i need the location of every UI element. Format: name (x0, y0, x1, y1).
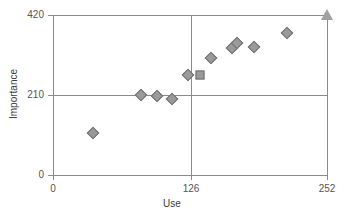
data-point[interactable] (195, 71, 204, 80)
data-point[interactable] (165, 92, 178, 105)
x-tick-252 (327, 175, 328, 180)
y-tick-label-210: 210 (0, 89, 44, 100)
y-tick-label-0: 0 (0, 169, 44, 180)
y-axis-title: Importance (8, 44, 19, 144)
data-point[interactable] (181, 69, 194, 82)
data-point[interactable] (87, 127, 100, 140)
x-tick-label-252: 252 (307, 183, 344, 194)
data-point[interactable] (321, 9, 333, 20)
x-tick-126 (191, 175, 192, 180)
scatter-chart: 420 210 0 0 126 252 Use Importance (0, 0, 344, 218)
data-point[interactable] (204, 52, 217, 65)
data-point-layer (53, 15, 327, 175)
x-axis-title: Use (0, 198, 344, 209)
x-tick-label-0: 0 (33, 183, 73, 194)
data-point[interactable] (280, 27, 293, 40)
x-tick-0 (53, 175, 54, 180)
y-tick-label-420: 420 (0, 9, 44, 20)
data-point[interactable] (135, 89, 148, 102)
data-point[interactable] (151, 89, 164, 102)
x-tick-label-126: 126 (171, 183, 211, 194)
data-point[interactable] (248, 41, 261, 54)
